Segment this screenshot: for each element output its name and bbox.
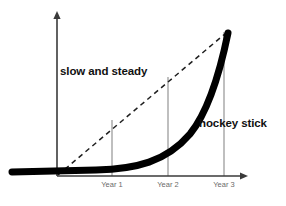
- slow-and-steady-dashed-line: [58, 33, 226, 175]
- y-axis-arrowhead: [53, 11, 60, 19]
- x-tick-label-year-1: Year 1: [92, 180, 132, 189]
- x-axis-arrowhead: [240, 172, 248, 179]
- chart-canvas: [0, 0, 286, 206]
- annotation-hockey-stick: hockey stick: [199, 117, 267, 129]
- x-tick-label-year-2: Year 2: [148, 180, 188, 189]
- hockey-stick-growth-chart: slow and steady hockey stick Year 1 Year…: [0, 0, 286, 206]
- x-tick-label-year-3: Year 3: [204, 180, 244, 189]
- annotation-slow-and-steady: slow and steady: [60, 65, 147, 77]
- hockey-stick-curve: [12, 33, 228, 172]
